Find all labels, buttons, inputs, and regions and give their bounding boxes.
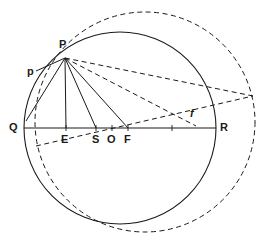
point-label-e: E [61, 134, 68, 145]
line-p-to-e [65, 58, 66, 128]
point-label-o: O [107, 134, 116, 145]
point-label-p-lower: p [27, 66, 34, 77]
point-label-q: Q [9, 122, 18, 133]
point-label-r: R [220, 122, 228, 133]
dashed-line-p-to-f-point [65, 58, 196, 126]
line-p-to-s [65, 58, 96, 128]
point-label-s: S [92, 134, 99, 145]
diagram-vector-layer [0, 0, 270, 237]
geometric-diagram-canvas: P p Q E S O F R f [0, 0, 270, 237]
dashed-chord-from-p [65, 58, 253, 96]
point-label-f-upper: F [124, 134, 131, 145]
point-label-p-upper: P [59, 39, 66, 50]
point-label-f-lower: f [190, 108, 194, 119]
